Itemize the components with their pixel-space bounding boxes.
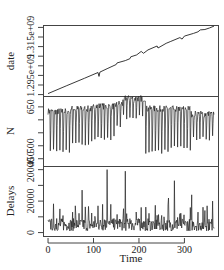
ylabel-date: date — [4, 52, 16, 70]
x-tick-label: 300 — [177, 244, 192, 255]
time-series-chart: 1.295e+091.315e+0945050065002000020000 0… — [0, 0, 224, 270]
y-tick-label: 500 — [25, 138, 36, 153]
xlabel: Time — [120, 252, 143, 264]
x-tick-label: 100 — [86, 244, 101, 255]
ylabel-n: N — [4, 127, 16, 135]
y-tick-label: 20000 — [25, 157, 36, 182]
y-axes: 1.295e+091.315e+0945050065002000020000 — [25, 16, 44, 235]
y-tick-label: 0 — [25, 230, 36, 235]
y-tick-label: 650 — [25, 99, 36, 114]
ylabel-delays: Delays — [4, 186, 16, 217]
panel-date-frame — [44, 26, 219, 97]
series-date — [48, 26, 214, 94]
y-tick-label: 20000 — [25, 189, 36, 214]
y-tick-label: 1.315e+09 — [25, 16, 36, 59]
y-tick-label: 1.295e+09 — [25, 54, 36, 97]
series-n — [48, 96, 214, 154]
series-lines — [48, 26, 214, 231]
series-delays — [48, 170, 214, 231]
x-tick-label: 0 — [46, 244, 51, 255]
